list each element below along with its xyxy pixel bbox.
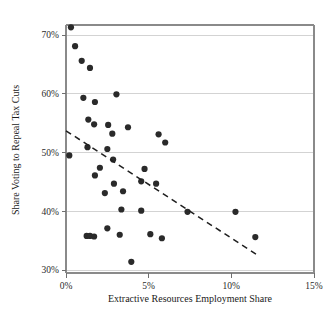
data-point — [104, 225, 110, 231]
data-point — [91, 233, 97, 239]
x-tick-label-5%: 5% — [142, 281, 155, 291]
data-point — [68, 24, 74, 30]
data-point — [97, 165, 103, 171]
data-point — [118, 206, 124, 212]
y-tick-label-60%: 60% — [42, 89, 60, 99]
axes — [66, 25, 314, 273]
data-point — [128, 259, 134, 265]
gridlines — [66, 35, 314, 270]
x-tick-label-10%: 10% — [223, 281, 241, 291]
scatter-plot-figure: 30%40%50%60%70% 0%5%10%15% Extractive Re… — [0, 0, 335, 322]
data-point — [125, 124, 131, 130]
data-point — [80, 95, 86, 101]
data-point — [66, 152, 72, 158]
data-point — [92, 172, 98, 178]
x-tick-label-0%: 0% — [60, 281, 73, 291]
data-point — [153, 181, 159, 187]
data-point — [232, 209, 238, 215]
x-tick-label-15%: 15% — [305, 281, 323, 291]
x-axis-ticks: 0%5%10%15% — [60, 273, 323, 291]
y-tick-label-70%: 70% — [42, 30, 60, 40]
data-point — [120, 188, 126, 194]
data-point — [105, 122, 111, 128]
y-axis-ticks: 30%40%50%60%70% — [42, 30, 66, 275]
chart-canvas: 30%40%50%60%70% 0%5%10%15% Extractive Re… — [0, 0, 335, 322]
data-point — [87, 65, 93, 71]
y-tick-label-40%: 40% — [42, 207, 60, 217]
data-point — [72, 43, 78, 49]
data-point — [159, 235, 165, 241]
data-point — [252, 234, 258, 240]
data-point — [92, 99, 98, 105]
data-point — [109, 131, 115, 137]
data-point — [91, 121, 97, 127]
data-point — [111, 181, 117, 187]
data-points — [66, 24, 258, 265]
data-point — [117, 232, 123, 238]
data-point — [155, 131, 161, 137]
data-point — [113, 91, 119, 97]
data-point — [104, 146, 110, 152]
y-tick-label-30%: 30% — [42, 265, 60, 275]
data-point — [147, 231, 153, 237]
y-tick-label-50%: 50% — [42, 148, 60, 158]
y-axis-label: Share Voting to Repeal Tax Cuts — [10, 85, 21, 215]
data-point — [141, 166, 147, 172]
data-point — [85, 117, 91, 123]
x-axis-label: Extractive Resources Employment Share — [108, 293, 273, 304]
data-point — [102, 190, 108, 196]
data-point — [162, 139, 168, 145]
data-point — [138, 208, 144, 214]
data-point — [79, 58, 85, 64]
